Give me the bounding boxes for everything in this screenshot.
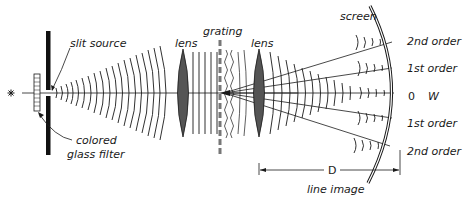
order-label-2nd-upper: 2nd order xyxy=(407,36,461,47)
arrowhead xyxy=(38,112,44,118)
colored-label: colored xyxy=(76,135,117,146)
glass-filter-label: glass filter xyxy=(67,149,125,160)
screen-label: screen xyxy=(340,11,377,22)
arrowhead xyxy=(393,168,399,172)
lens-right-label: lens xyxy=(251,38,274,49)
order-label-zero: 0 xyxy=(408,91,415,102)
glass-filter xyxy=(34,74,40,111)
arrowhead xyxy=(260,168,266,172)
order-label-1st-upper: 1st order xyxy=(407,63,457,74)
order-label-w: W xyxy=(428,91,439,102)
lens-right xyxy=(254,49,265,137)
line-image-label: line image xyxy=(307,184,365,195)
distance-label: D xyxy=(328,165,336,176)
diffracted-rays xyxy=(224,42,394,146)
converging-wavefronts xyxy=(270,35,385,153)
star-source-icon xyxy=(8,90,15,97)
slit-source-leader xyxy=(52,48,70,90)
filter-leader xyxy=(39,114,72,140)
order-label-1st-lower: 1st order xyxy=(407,118,457,129)
lens-left xyxy=(178,49,189,137)
grating-label: grating xyxy=(203,26,243,37)
slit-source-label: slit source xyxy=(70,38,126,49)
lens-left-label: lens xyxy=(175,38,198,49)
order-label-2nd-lower: 2nd order xyxy=(407,146,461,157)
